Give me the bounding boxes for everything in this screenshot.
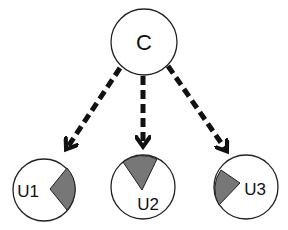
node-label: C <box>136 30 152 55</box>
node-label: U2 <box>137 195 159 214</box>
node-u2: U2 <box>111 155 175 219</box>
edge-c-to-u3 <box>168 66 226 150</box>
node-label: U3 <box>244 180 266 199</box>
node-label: U1 <box>17 182 39 201</box>
edge-c-to-u1 <box>67 68 120 148</box>
node-c: C <box>111 9 177 75</box>
edges-group <box>67 66 226 150</box>
node-u1: U1 <box>13 159 75 221</box>
nodes-group: CU1U2U3 <box>13 9 278 221</box>
diagram-canvas: CU1U2U3 <box>0 0 288 230</box>
node-u3: U3 <box>214 155 278 219</box>
